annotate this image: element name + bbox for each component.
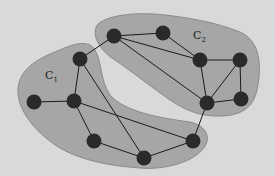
node-G (67, 94, 82, 109)
node-B (107, 29, 122, 44)
node-H (200, 96, 215, 111)
node-A (73, 52, 88, 67)
node-D (193, 53, 208, 68)
node-I (234, 92, 249, 107)
node-F (27, 95, 42, 110)
cluster-graph-diagram: C1 C2 (0, 0, 275, 176)
node-E (233, 53, 248, 68)
node-J (87, 134, 102, 149)
node-K (137, 151, 152, 166)
node-L (186, 134, 201, 149)
node-C (156, 26, 171, 41)
